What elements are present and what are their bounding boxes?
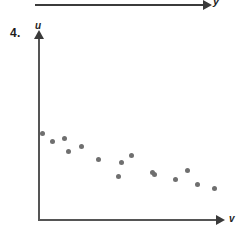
data-point (129, 153, 134, 158)
data-point (50, 139, 55, 144)
data-point (195, 182, 200, 187)
data-point (116, 174, 121, 179)
data-point (173, 177, 178, 182)
data-point (119, 160, 124, 165)
data-points-layer (0, 0, 248, 240)
data-point (79, 144, 84, 149)
data-point (185, 168, 190, 173)
data-point (96, 157, 101, 162)
scatter-plot: u v (0, 0, 248, 240)
data-point (62, 136, 67, 141)
data-point (66, 149, 71, 154)
data-point (152, 172, 157, 177)
data-point (40, 131, 45, 136)
data-point (212, 186, 217, 191)
